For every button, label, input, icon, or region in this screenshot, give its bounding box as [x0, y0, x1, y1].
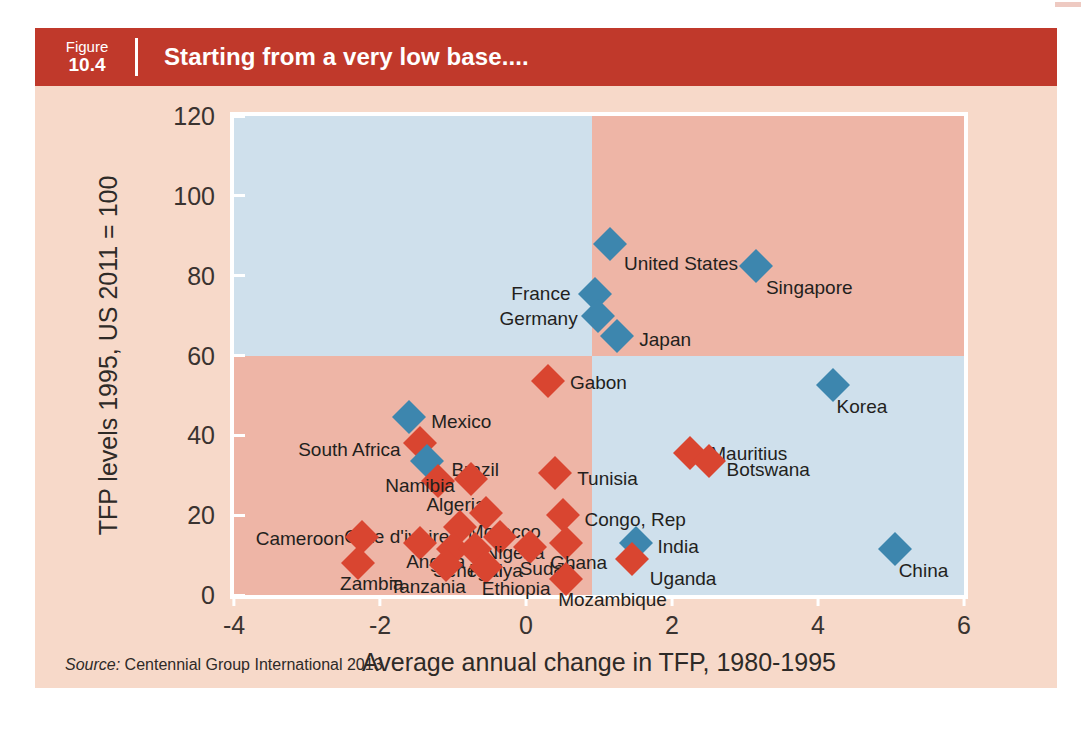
header-divider [135, 38, 138, 76]
source-line: Source: Centennial Group International 2… [65, 656, 383, 674]
figure-panel: Figure 10.4 Starting from a very low bas… [35, 28, 1057, 688]
data-point-label: Singapore [766, 277, 853, 299]
y-tick-mark [234, 434, 245, 437]
x-tick-mark [232, 595, 235, 606]
y-tick-label: 120 [173, 102, 234, 131]
x-axis-tick: 2 [665, 595, 679, 640]
y-tick-label: 60 [187, 341, 234, 370]
data-point-label: Gabon [570, 372, 627, 394]
data-point-label: Tunisia [577, 468, 638, 490]
scatter-plot-area: 020406080100120-4-20246United StatesSing… [234, 116, 964, 595]
figure-number-block: Figure 10.4 [35, 39, 135, 75]
y-tick-label: 20 [187, 501, 234, 530]
y-axis-tick: 60 [187, 341, 234, 370]
x-axis-tick: -4 [223, 595, 245, 640]
figure-title: Starting from a very low base.... [164, 43, 529, 71]
data-point-label: Mozambique [558, 589, 667, 611]
page-edge-mark [1055, 2, 1081, 7]
y-tick-mark [234, 194, 245, 197]
data-point-label: Mexico [431, 411, 491, 433]
data-point-label: Namibia [385, 475, 455, 497]
data-point-label: Uganda [650, 568, 717, 590]
x-axis-tick: 0 [519, 595, 533, 640]
figure-header: Figure 10.4 Starting from a very low bas… [35, 28, 1057, 86]
data-point-label: Germany [500, 308, 578, 330]
y-tick-mark [234, 274, 245, 277]
y-tick-label: 40 [187, 421, 234, 450]
x-tick-mark [817, 595, 820, 606]
data-point-label: United States [624, 253, 738, 275]
figure-number-label: Figure [39, 39, 135, 55]
data-point-label: Tanzania [390, 576, 466, 598]
x-tick-mark [378, 595, 381, 606]
data-point-label: South Africa [298, 439, 400, 461]
x-axis-tick: 6 [957, 595, 971, 640]
data-point-label: India [658, 536, 699, 558]
x-tick-mark [963, 595, 966, 606]
y-tick-label: 100 [173, 181, 234, 210]
figure-number-value: 10.4 [39, 55, 135, 75]
y-tick-mark [234, 354, 245, 357]
page-edge [0, 0, 1089, 14]
data-point-label: Ethiopia [482, 578, 551, 600]
source-text: Centennial Group International 2013 [125, 656, 383, 673]
data-point-label: France [511, 283, 570, 305]
y-axis-tick: 80 [187, 261, 234, 290]
y-axis-tick: 40 [187, 421, 234, 450]
x-axis-tick: -2 [369, 595, 391, 640]
x-axis-tick: 4 [811, 595, 825, 640]
y-tick-mark [234, 115, 245, 118]
data-point-label: Botswana [727, 459, 810, 481]
data-point-label: Japan [639, 329, 691, 351]
y-axis-tick: 100 [173, 181, 234, 210]
y-axis-tick: 120 [173, 102, 234, 131]
x-tick-mark [671, 595, 674, 606]
y-tick-mark [234, 514, 245, 517]
y-axis-label: TFP levels 1995, US 2011 = 100 [91, 116, 125, 595]
source-prefix: Source: [65, 656, 120, 673]
data-point-label: China [899, 560, 949, 582]
quadrant-top-right [592, 116, 964, 356]
y-axis-tick: 20 [187, 501, 234, 530]
data-point-label: Korea [837, 396, 888, 418]
y-tick-label: 80 [187, 261, 234, 290]
data-point-label: Cameroon [256, 528, 345, 550]
